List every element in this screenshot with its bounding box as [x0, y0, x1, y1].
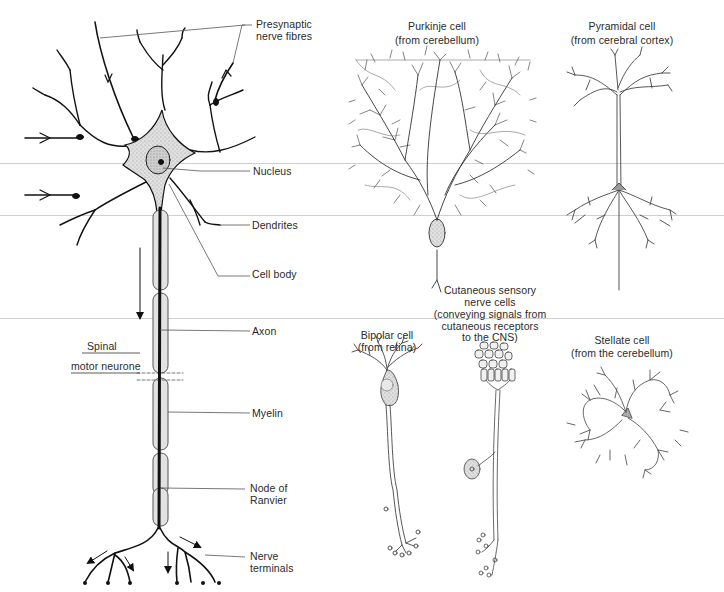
label-cutaneous-line5: to the CNS) [462, 331, 518, 343]
label-bipolar-origin: (from retina) [358, 341, 416, 353]
stellate-cell [567, 367, 688, 478]
label-purkinje-origin: (from cerebellum) [395, 34, 479, 46]
label-node-line1: Node of [250, 482, 287, 494]
purkinje-cell [349, 46, 536, 292]
label-terminals-line1: Nerve [250, 550, 279, 562]
caption-motor-neurone: motor neurone [71, 360, 141, 372]
label-cell-body: Cell body [252, 268, 297, 280]
label-presynaptic-line1: Presynaptic [256, 18, 312, 30]
label-stellate-origin: (from the cerebellum) [571, 347, 673, 359]
label-stellate-name: Stellate cell [595, 334, 650, 346]
label-pyramidal-origin: (from cerebral cortex) [571, 34, 674, 46]
cutaneous-sensory-cell [464, 342, 515, 577]
label-pyramidal-name: Pyramidal cell [589, 20, 656, 32]
label-bipolar-name: Bipolar cell [361, 329, 414, 341]
label-nucleus: Nucleus [253, 165, 292, 177]
pyramidal-cell [567, 47, 676, 290]
label-node-line2: Ranvier [250, 494, 287, 506]
label-terminals-line2: terminals [250, 562, 294, 574]
label-dendrites: Dendrites [252, 219, 298, 231]
label-purkinje-name: Purkinje cell [408, 20, 466, 32]
motor-neurone [25, 22, 255, 585]
label-myelin: Myelin [252, 407, 283, 419]
label-presynaptic-line2: nerve fibres [256, 30, 312, 42]
label-cutaneous-line2: nerve cells [464, 296, 515, 308]
label-cutaneous-name: Cutaneous sensory [444, 284, 536, 296]
label-axon: Axon [252, 325, 276, 337]
bipolar-cell [352, 336, 422, 557]
caption-spinal: Spinal [87, 340, 117, 352]
neuron-illustration [0, 0, 724, 592]
label-cutaneous-line3: (conveying signals from [434, 308, 547, 320]
